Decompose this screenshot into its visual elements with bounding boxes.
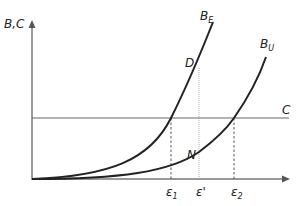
curve-b-e [32, 22, 213, 179]
tick-epsilon-1: ε1 [166, 186, 178, 201]
x-axis-arrow-icon [282, 176, 290, 183]
tick-epsilon-prime: ε' [196, 186, 206, 198]
curve-label-b-u: BU [260, 38, 274, 53]
curve-label-b-e: BE [200, 10, 213, 25]
point-n-label: N [187, 149, 196, 161]
point-d-label: D [185, 57, 194, 69]
cost-line-label: C [282, 104, 290, 116]
y-axis-label: B,C [4, 18, 24, 30]
diagram-canvas [0, 0, 298, 206]
tick-epsilon-2: ε2 [231, 186, 243, 201]
y-axis-arrow-icon [29, 20, 36, 28]
